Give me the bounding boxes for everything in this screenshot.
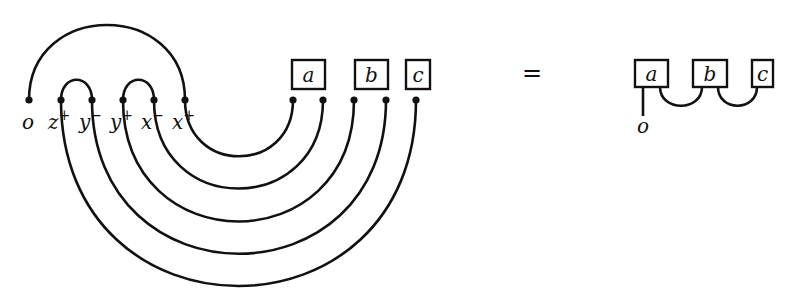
- cap-o-xplus: [29, 25, 185, 100]
- right-box-c: c: [752, 60, 773, 87]
- port-labels: o z+ y− y+ x− x+: [22, 107, 195, 134]
- port-dot: [150, 96, 157, 103]
- port-dot: [119, 96, 126, 103]
- port-label-zplus: z+: [47, 107, 70, 134]
- port-label-xminus: x−: [141, 107, 164, 134]
- left-box-a: a: [292, 60, 325, 89]
- port-dot: [412, 96, 419, 103]
- port-label-o: o: [22, 110, 34, 134]
- right-box-a: a: [635, 60, 668, 87]
- output-label-o: o: [637, 114, 649, 138]
- box-label: a: [303, 63, 315, 87]
- box-label: c: [412, 63, 423, 87]
- cup-a-b: [660, 87, 702, 106]
- cup-yminus-b2: [92, 100, 386, 254]
- left-box-c: c: [406, 60, 430, 89]
- string-diagram: o z+ y− y+ x− x+ a b c = a: [0, 0, 796, 304]
- right-diagram: a b c o: [635, 60, 773, 138]
- cup-b-c: [718, 87, 757, 106]
- box-label: c: [757, 62, 768, 86]
- port-dot: [57, 96, 64, 103]
- box-label: b: [365, 63, 378, 87]
- left-diagram: o z+ y− y+ x− x+ a b c: [22, 25, 430, 286]
- port-dot: [350, 96, 357, 103]
- right-box-b: b: [693, 60, 727, 87]
- port-dot: [181, 96, 188, 103]
- port-dot: [289, 96, 296, 103]
- box-label: b: [704, 62, 717, 86]
- port-dot: [319, 96, 326, 103]
- port-label-yplus: y+: [109, 107, 133, 134]
- port-dots: [25, 96, 419, 103]
- port-dot: [88, 96, 95, 103]
- box-label: a: [646, 62, 658, 86]
- port-dot: [25, 96, 32, 103]
- cup-xplus-a1: [185, 100, 293, 156]
- cap-yplus-xminus: [123, 80, 154, 100]
- cap-zplus-yminus: [61, 80, 92, 100]
- port-dot: [382, 96, 389, 103]
- port-label-yminus: y−: [78, 107, 102, 134]
- left-box-b: b: [355, 60, 388, 89]
- equals-sign: =: [522, 59, 542, 87]
